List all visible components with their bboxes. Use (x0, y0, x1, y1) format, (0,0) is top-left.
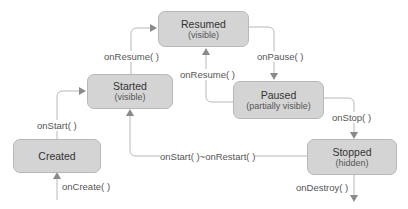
state-started: Started (visible) (87, 74, 173, 109)
label-onresume-paused: onResume( ) (180, 69, 235, 80)
state-title: Resumed (181, 18, 226, 30)
label-onresume-started: onResume( ) (104, 51, 159, 62)
label-ondestroy: onDestroy( ) (296, 182, 348, 193)
label-onstart: onStart( ) (37, 120, 77, 131)
state-subtitle: (partially visible) (246, 101, 311, 112)
label-oncreate: onCreate( ) (62, 181, 110, 192)
state-title: Paused (261, 89, 297, 101)
label-onstop: onStop( ) (332, 112, 371, 123)
state-subtitle: (visible) (188, 30, 219, 41)
state-subtitle: (visible) (114, 92, 145, 103)
label-onstart-onrestart: onStart( )~onRestart( ) (160, 151, 255, 162)
state-title: Stopped (332, 146, 371, 158)
state-title: Created (38, 150, 75, 162)
state-created: Created (13, 139, 101, 173)
label-onpause: onPause( ) (257, 51, 303, 62)
state-paused: Paused (partially visible) (233, 81, 324, 119)
state-title: Started (113, 80, 147, 92)
state-resumed: Resumed (visible) (158, 11, 249, 47)
state-subtitle: (hidden) (335, 158, 368, 169)
state-stopped: Stopped (hidden) (307, 139, 397, 175)
